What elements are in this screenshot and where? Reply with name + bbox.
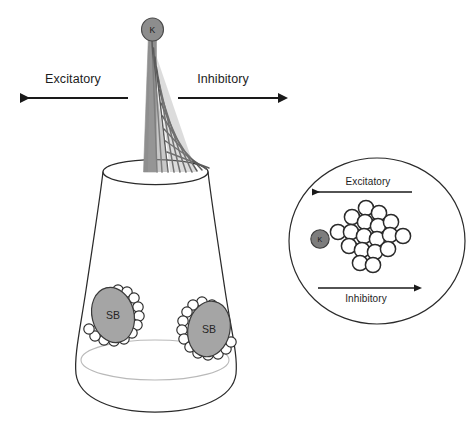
kinocilium-inset-label: K (318, 236, 323, 243)
excitatory-label-main: Excitatory (45, 72, 102, 86)
diagram-canvas: K Excitatory Inhibitory SB (0, 0, 466, 426)
inhibitory-label-inset: Inhibitory (345, 293, 387, 304)
synaptic-body-left-label: SB (106, 309, 120, 321)
stereocilia-bundle: K (142, 18, 210, 172)
hair-cell-diagram: K Excitatory Inhibitory SB (0, 0, 466, 426)
synaptic-body-right-label: SB (202, 323, 216, 335)
hair-cell-body (76, 160, 237, 413)
kinocilium-label: K (150, 25, 156, 35)
excitatory-label-inset: Excitatory (346, 176, 391, 187)
apical-view-inset: Excitatory Inhibitory (289, 158, 465, 324)
inhibitory-label-main: Inhibitory (197, 72, 249, 86)
